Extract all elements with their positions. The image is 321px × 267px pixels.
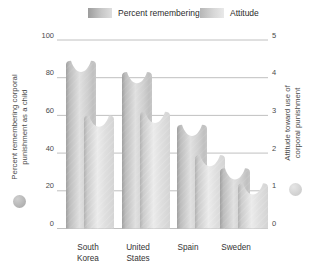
bar-chart: 100806040200543210SouthKoreaUnitedStates…	[0, 0, 321, 267]
left-axis-tick-label: 40	[46, 144, 54, 153]
left-axis-tick-label: 60	[46, 106, 54, 115]
bar-attitude-texture	[140, 112, 170, 229]
category-label-united-states: UnitedStates	[126, 243, 150, 263]
category-label-sweden: Sweden	[221, 243, 251, 252]
right-axis-tick-label: 4	[272, 68, 276, 77]
category-label-spain: Spain	[178, 243, 199, 252]
left-axis-tick-label: 100	[41, 31, 54, 40]
right-axis-tick-label: 5	[272, 31, 276, 40]
left-axis-tick-label: 0	[50, 219, 54, 228]
bar-attitude-texture	[84, 115, 114, 228]
category-label-south-korea: SouthKorea	[77, 243, 99, 263]
left-axis-tick-label: 80	[46, 68, 54, 77]
bar-attitude-texture	[238, 183, 268, 228]
right-axis-tick-label: 2	[272, 144, 276, 153]
right-axis-tick-label: 3	[272, 106, 276, 115]
right-axis-tick-label: 1	[272, 181, 276, 190]
figure: Percent remembering Attitude Percent rem…	[0, 0, 321, 267]
right-axis-tick-label: 0	[272, 219, 276, 228]
left-axis-tick-label: 20	[46, 181, 54, 190]
